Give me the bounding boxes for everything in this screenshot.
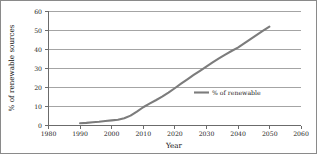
series-line-renewable	[80, 27, 269, 124]
y-axis-title: % of renewable sources	[7, 24, 16, 111]
chart-figure: 0 10 20 30 40 50 60 1980 1990 2000 2010 …	[0, 0, 317, 154]
y-axis-ticks: 0 10 20 30 40 50 60	[34, 8, 48, 129]
x-axis-ticks: 1980 1990 2000 2010 2020 2030 2040 2050 …	[41, 126, 309, 138]
x-tick-label-2050: 2050	[262, 130, 278, 137]
x-tick-label-1990: 1990	[72, 130, 88, 137]
y-tick-label-40: 40	[34, 46, 42, 53]
x-tick-label-2010: 2010	[135, 130, 151, 137]
chart-legend: % of renewable	[194, 89, 261, 96]
x-tick-label-2020: 2020	[167, 130, 183, 137]
y-tick-label-50: 50	[34, 27, 42, 34]
y-tick-label-20: 20	[34, 84, 42, 91]
y-tick-label-10: 10	[34, 103, 42, 110]
y-tick-label-30: 30	[34, 65, 42, 72]
y-tick-label-0: 0	[38, 122, 42, 129]
gridlines	[48, 12, 301, 107]
x-axis-title: Year	[165, 141, 183, 150]
x-tick-label-1980: 1980	[41, 130, 57, 137]
x-tick-label-2000: 2000	[104, 130, 120, 137]
renewable-share-line-chart: 0 10 20 30 40 50 60 1980 1990 2000 2010 …	[1, 1, 317, 154]
legend-label-renewable: % of renewable	[212, 89, 261, 96]
x-tick-label-2030: 2030	[199, 130, 215, 137]
x-tick-label-2040: 2040	[230, 130, 246, 137]
x-tick-label-2060: 2060	[293, 130, 309, 137]
y-tick-label-60: 60	[34, 8, 42, 15]
